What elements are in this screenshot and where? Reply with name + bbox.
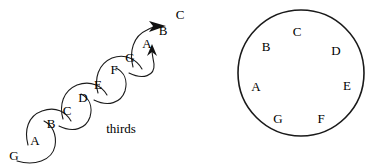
arc-e-to-g xyxy=(97,56,142,93)
left-diagram: G A B C D E F G A B C thirds xyxy=(0,0,200,168)
circle-note-label-b: B xyxy=(262,40,271,53)
note-label-g2: G xyxy=(125,51,134,64)
note-label-b2: B xyxy=(159,24,168,37)
circle-note-label-d: D xyxy=(331,44,340,57)
note-circle-svg xyxy=(200,0,381,168)
thirds-caption: thirds xyxy=(106,122,136,135)
note-label-d1: D xyxy=(78,91,87,104)
figure-root: G A B C D E F G A B C thirds A B C D E F… xyxy=(0,0,381,168)
circle-note-label-a: A xyxy=(251,80,260,93)
note-label-g1: G xyxy=(9,149,18,162)
circle-note-label-f: F xyxy=(317,112,324,125)
note-label-a1: A xyxy=(30,134,39,147)
note-label-a2: A xyxy=(142,37,151,50)
note-label-c1: C xyxy=(63,104,72,117)
right-diagram: A B C D E F G xyxy=(200,0,381,168)
note-label-c2: C xyxy=(176,8,185,21)
note-label-b1: B xyxy=(47,117,56,130)
circle-note-label-g: G xyxy=(273,112,282,125)
note-label-e1: E xyxy=(94,78,102,91)
circle-note-label-e: E xyxy=(343,79,351,92)
circle-note-label-c: C xyxy=(293,25,302,38)
note-label-f1: F xyxy=(110,63,117,76)
